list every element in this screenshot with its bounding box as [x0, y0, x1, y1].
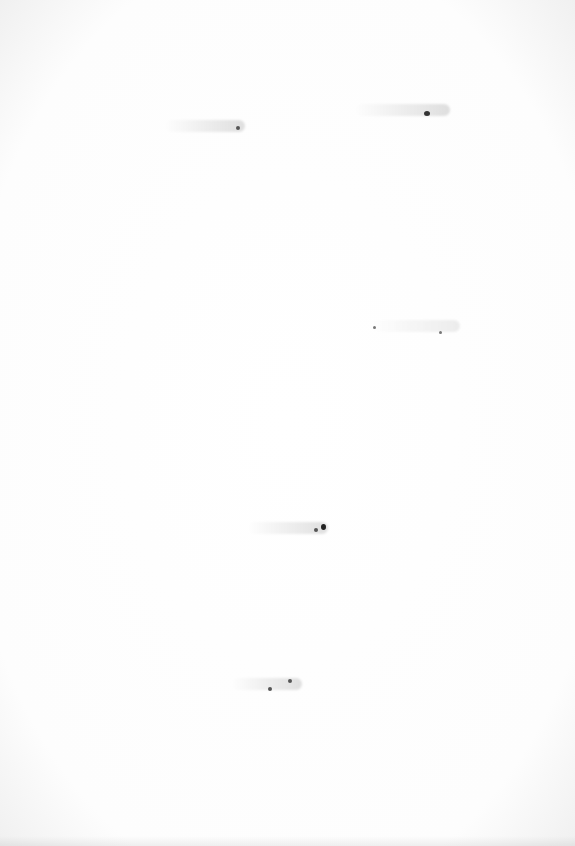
scan-noise-mark — [370, 320, 460, 332]
scan-noise-dot — [314, 528, 318, 532]
scan-noise-dot — [268, 687, 272, 691]
scan-noise-dot — [321, 524, 326, 530]
scan-noise-dot — [288, 679, 292, 683]
scan-noise-dot — [236, 126, 240, 130]
blank-document-page — [0, 0, 575, 846]
scan-noise-dot — [373, 326, 376, 329]
scan-noise-dot — [424, 111, 430, 116]
scan-noise-mark — [165, 120, 245, 132]
scan-noise-mark — [355, 104, 450, 116]
scan-noise-dot — [439, 331, 442, 334]
page-bottom-edge — [0, 836, 575, 846]
